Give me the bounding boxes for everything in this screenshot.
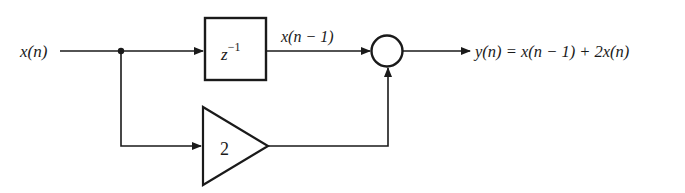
delay-output-label: x(n − 1)	[280, 28, 334, 46]
gain-to-adder-arrow	[268, 68, 388, 146]
input-label: x(n)	[19, 42, 48, 61]
adder-node	[372, 36, 403, 67]
gain-block	[203, 107, 268, 185]
block-diagram: x(n) z−1 x(n − 1) 2 y(n) = x(n − 1) + 2x…	[0, 0, 685, 193]
gain-label: 2	[220, 139, 229, 159]
branch-to-gain-arrow	[121, 51, 201, 146]
output-label: y(n) = x(n − 1) + 2x(n)	[473, 42, 629, 61]
delay-label: z−1	[220, 40, 240, 64]
